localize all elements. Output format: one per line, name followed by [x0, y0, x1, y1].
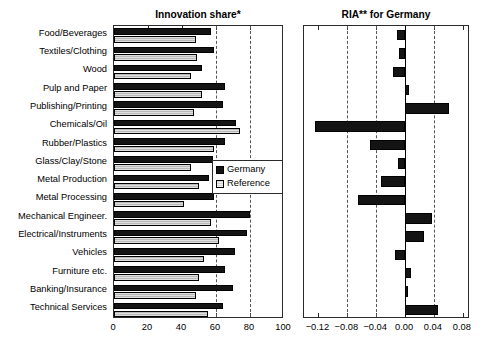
category-label: Publishing/Printing [0, 102, 107, 111]
category-labels: Food/BeveragesTextiles/ClothingWoodPulp … [0, 25, 111, 318]
category-label: Banking/Insurance [0, 285, 107, 294]
gridline [376, 26, 377, 317]
bar-reference [114, 146, 214, 153]
bar-reference [114, 91, 202, 98]
bar-germany [114, 211, 250, 218]
axis-tick-mark [463, 26, 464, 30]
bar-germany [114, 303, 223, 310]
bar-ria [405, 85, 409, 96]
gray-hatched-square-icon [216, 180, 224, 188]
bar-germany [114, 83, 225, 90]
bar-ria [370, 140, 405, 151]
bar-ria [358, 195, 405, 206]
category-label: Wood [0, 65, 107, 74]
axis-tick-label: 0.08 [437, 322, 485, 332]
bar-ria [315, 121, 405, 132]
category-label: Vehicles [0, 248, 107, 257]
bar-germany [114, 266, 225, 273]
category-label: Textiles/Clothing [0, 47, 107, 56]
bar-germany [114, 28, 211, 35]
bar-ria [398, 158, 405, 169]
bar-germany [114, 248, 235, 255]
black-square-icon [216, 166, 224, 174]
bar-reference [114, 183, 199, 190]
bar-reference [114, 54, 197, 61]
category-label: Rubber/Plastics [0, 139, 107, 148]
bar-reference [114, 128, 240, 135]
category-label: Mechanical Engineer. [0, 212, 107, 221]
bar-germany [114, 120, 236, 127]
bar-germany [114, 65, 202, 72]
axis-tick-mark [318, 26, 319, 30]
bar-reference [114, 73, 191, 80]
bar-reference [114, 274, 199, 281]
gridline [434, 26, 435, 317]
bar-ria [381, 176, 406, 187]
bar-ria [399, 48, 405, 59]
category-label: Electrical/Instruments [0, 230, 107, 239]
category-label: Technical Services [0, 303, 107, 312]
bar-reference [114, 219, 211, 226]
bar-germany [114, 156, 213, 163]
bar-germany [114, 101, 223, 108]
axis-tick-mark [318, 313, 319, 317]
bar-ria [405, 286, 408, 297]
bar-reference [114, 311, 208, 318]
category-label: Food/Beverages [0, 29, 107, 38]
chart-figure: Food/BeveragesTextiles/ClothingWoodPulp … [0, 0, 485, 355]
bar-germany [114, 47, 214, 54]
category-label: Pulp and Paper [0, 84, 107, 93]
bar-ria [393, 67, 405, 78]
bar-reference [114, 292, 196, 299]
ria-plot [303, 25, 469, 318]
bar-germany [114, 193, 214, 200]
bar-germany [114, 285, 233, 292]
left-axis-ticks: 020406080100 [113, 322, 283, 336]
bar-ria [405, 268, 411, 279]
category-label: Metal Production [0, 175, 107, 184]
legend: GermanyReference [212, 160, 283, 194]
legend-label: Germany [227, 165, 265, 174]
gridline [347, 26, 348, 317]
bar-reference [114, 109, 194, 116]
right-panel-title: RIA** for Germany [303, 9, 469, 20]
left-panel-title: Innovation share* [113, 9, 283, 20]
category-label: Metal Processing [0, 193, 107, 202]
bar-reference [114, 36, 196, 43]
bar-ria [405, 231, 424, 242]
bar-reference [114, 256, 204, 263]
bar-reference [114, 201, 184, 208]
bar-reference [114, 164, 191, 171]
axis-tick-mark [463, 313, 464, 317]
category-label: Chemicals/Oil [0, 120, 107, 129]
legend-item: Germany [216, 163, 279, 177]
right-axis-ticks: −0.12−0.08−0.040.000.040.08 [303, 322, 469, 336]
bar-germany [114, 175, 209, 182]
bar-ria [405, 305, 438, 316]
legend-item: Reference [216, 177, 279, 191]
bar-ria [405, 103, 449, 114]
bar-ria [405, 213, 432, 224]
bar-germany [114, 230, 247, 237]
category-label: Furniture etc. [0, 267, 107, 276]
bar-ria [397, 30, 405, 41]
bar-ria [395, 250, 405, 261]
category-label: Glass/Clay/Stone [0, 157, 107, 166]
bar-reference [114, 237, 219, 244]
bar-germany [114, 138, 225, 145]
legend-label: Reference [227, 179, 270, 188]
